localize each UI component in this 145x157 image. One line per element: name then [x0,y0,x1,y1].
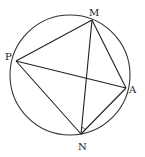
segment-PM [16,20,92,61]
label-N: N [78,141,87,152]
label-P: P [5,51,12,62]
segment-AN [81,88,126,134]
angle-mark-N [82,128,86,130]
geometry-figure: M P A N [0,0,145,157]
segment-MA [92,20,126,88]
label-A: A [128,84,137,95]
segment-PA [16,61,126,88]
label-M: M [89,7,99,18]
segment-NP [16,61,81,134]
